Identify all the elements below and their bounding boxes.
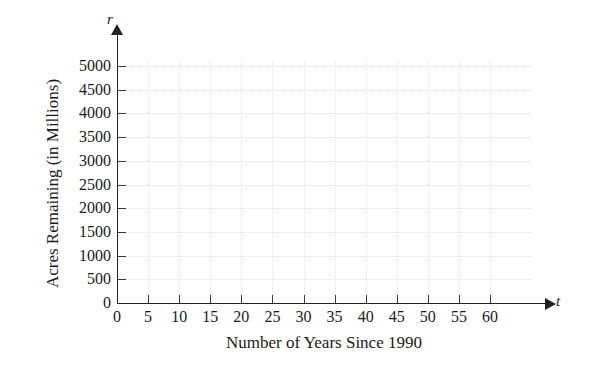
x-axis-tick-label: 30 <box>296 309 312 325</box>
chart-figure: 0500100015002000250030003500400045005000… <box>0 0 600 374</box>
x-axis-tick <box>459 295 460 303</box>
y-axis-variable-label: r <box>107 12 113 27</box>
x-axis-title: Number of Years Since 1990 <box>117 334 531 351</box>
x-axis-tick-label: 55 <box>451 309 467 325</box>
grid-line-vertical <box>210 60 211 303</box>
y-axis-title: Acres Remaining (in Millions) <box>44 44 61 324</box>
x-axis-tick <box>210 295 211 303</box>
grid-line-vertical <box>179 60 180 303</box>
grid-line-vertical <box>490 60 491 303</box>
y-axis-tick-label: 1500 <box>79 224 111 240</box>
grid-line-horizontal <box>117 161 531 162</box>
x-axis-tick-label: 5 <box>144 309 152 325</box>
y-axis-tick-label: 3500 <box>79 129 111 145</box>
y-axis-tick-label: 0 <box>103 295 111 311</box>
x-axis-arrowhead-icon <box>545 298 556 310</box>
y-axis-tick <box>118 232 126 233</box>
y-axis-tick-label: 5000 <box>79 58 111 74</box>
plot-area <box>117 60 531 303</box>
x-axis-tick-label: 0 <box>113 309 121 325</box>
y-axis-tick <box>118 185 126 186</box>
grid-line-vertical <box>148 60 149 303</box>
y-axis-tick-label: 500 <box>87 271 111 287</box>
x-axis-tick-label: 40 <box>358 309 374 325</box>
x-axis-tick <box>366 295 367 303</box>
y-axis-tick-label: 4000 <box>79 105 111 121</box>
x-axis-tick <box>335 295 336 303</box>
grid-line-horizontal <box>117 185 531 186</box>
x-axis-tick <box>428 295 429 303</box>
x-axis-tick <box>179 295 180 303</box>
y-axis-tick <box>118 208 126 209</box>
grid-line-vertical <box>241 60 242 303</box>
x-axis-tick-label: 25 <box>264 309 280 325</box>
grid-line-vertical <box>428 60 429 303</box>
x-axis-variable-label: t <box>556 294 560 309</box>
grid-line-horizontal <box>117 279 531 280</box>
x-axis-tick-label: 15 <box>202 309 218 325</box>
y-axis-tick <box>118 90 126 91</box>
grid-line-vertical <box>335 60 336 303</box>
grid-line-vertical <box>366 60 367 303</box>
y-axis-tick-label: 2500 <box>79 177 111 193</box>
x-axis-tick <box>272 295 273 303</box>
y-axis-tick <box>118 137 126 138</box>
grid-line-vertical <box>459 60 460 303</box>
x-axis-tick <box>304 295 305 303</box>
grid-line-horizontal <box>117 232 531 233</box>
grid-line-vertical <box>397 60 398 303</box>
grid-line-horizontal <box>117 90 531 91</box>
x-axis-tick-label: 10 <box>171 309 187 325</box>
x-axis-tick <box>148 295 149 303</box>
grid-line-horizontal <box>117 113 531 114</box>
y-axis-tick-label: 2000 <box>79 200 111 216</box>
y-axis-tick <box>118 161 126 162</box>
y-axis-tick <box>118 256 126 257</box>
x-axis-line <box>117 303 548 304</box>
x-axis-tick-label: 45 <box>389 309 405 325</box>
y-axis-tick-label: 1000 <box>79 248 111 264</box>
x-axis-tick-label: 35 <box>327 309 343 325</box>
grid-line-horizontal <box>117 66 531 67</box>
grid-line-horizontal <box>117 208 531 209</box>
x-axis-tick <box>241 295 242 303</box>
x-axis-tick-label: 20 <box>233 309 249 325</box>
grid-line-horizontal <box>117 256 531 257</box>
y-axis-tick-label: 3000 <box>79 153 111 169</box>
grid-line-horizontal <box>117 137 531 138</box>
y-axis-tick <box>118 113 126 114</box>
grid-line-vertical <box>304 60 305 303</box>
y-axis-tick <box>118 279 126 280</box>
x-axis-tick-label: 50 <box>420 309 436 325</box>
y-axis-tick-label: 4500 <box>79 82 111 98</box>
x-axis-tick <box>490 295 491 303</box>
y-axis-line <box>117 33 118 303</box>
grid-line-vertical <box>272 60 273 303</box>
x-axis-tick <box>397 295 398 303</box>
y-axis-tick <box>118 66 126 67</box>
x-axis-tick-label: 60 <box>482 309 498 325</box>
